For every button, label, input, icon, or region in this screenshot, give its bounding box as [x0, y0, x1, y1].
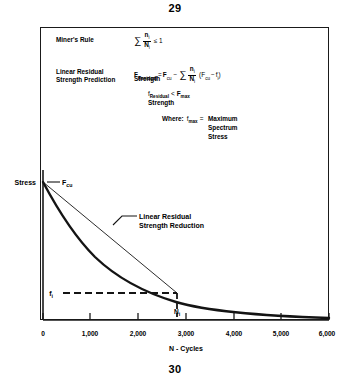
- residual-strength-decay-curve: [43, 182, 329, 318]
- x-tick-label-5000: 5,000: [273, 330, 290, 338]
- fcu-label: Fcu: [62, 179, 72, 188]
- x-tick-label-3000: 3,000: [178, 330, 195, 338]
- x-tick-label-2000: 2,000: [130, 330, 147, 338]
- linear-reduction-leader-line: [113, 216, 137, 225]
- x-tick-label-6000: 6,000: [319, 330, 336, 338]
- linear-reduction-label-line2: Strength Reduction: [139, 222, 204, 230]
- x-tick-label-0: 0: [41, 330, 45, 337]
- y-axis-title: Stress: [15, 179, 37, 186]
- x-tick-label-4000: 4,000: [226, 330, 243, 338]
- x-tick-label-1000: 1,000: [82, 330, 99, 338]
- residual-strength-plot: 0 1,000 2,000 3,000 4,000 5,000 6,000 N …: [0, 0, 350, 385]
- fi-label: fi: [49, 290, 53, 299]
- linear-residual-strength-reduction-line: [43, 182, 177, 293]
- x-axis-title: N - Cycles: [169, 345, 203, 353]
- linear-reduction-label-line1: Linear Residual: [139, 213, 191, 220]
